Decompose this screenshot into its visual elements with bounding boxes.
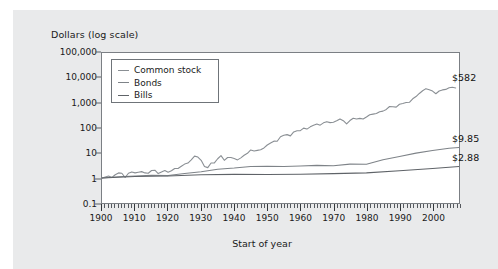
x-tick-minor: [171, 204, 172, 208]
x-tick-minor: [413, 204, 414, 208]
x-tick-minor: [344, 204, 345, 208]
x-tick-minor: [304, 204, 305, 208]
x-tick-label: 1910: [123, 213, 146, 223]
x-tick-minor: [394, 204, 395, 208]
x-tick-minor: [277, 204, 278, 208]
series-end-label: $2.88: [452, 152, 479, 163]
x-tick-label: 2000: [422, 213, 445, 223]
x-tick-minor: [290, 204, 291, 208]
x-tick-major: [101, 204, 102, 211]
x-tick-minor: [244, 204, 245, 208]
chart-figure: Dollars (log scale) 100,00010,0001,00010…: [0, 0, 498, 269]
x-tick-minor: [410, 204, 411, 208]
x-tick-minor: [294, 204, 295, 208]
x-tick-minor: [191, 204, 192, 208]
x-tick-minor: [121, 204, 122, 208]
x-tick-minor: [440, 204, 441, 208]
x-tick-minor: [430, 204, 431, 208]
x-tick-major: [367, 204, 368, 211]
legend-item: Common stock: [118, 64, 212, 77]
x-tick-minor: [251, 204, 252, 208]
x-tick-minor: [397, 204, 398, 208]
x-tick-minor: [227, 204, 228, 208]
x-tick-minor: [380, 204, 381, 208]
x-tick-minor: [124, 204, 125, 208]
x-tick-minor: [247, 204, 248, 208]
series-line: [102, 148, 459, 178]
x-tick-label: 1940: [223, 213, 246, 223]
x-tick-minor: [241, 204, 242, 208]
x-tick-minor: [337, 204, 338, 208]
series-end-label: $582: [452, 72, 476, 83]
x-tick-minor: [138, 204, 139, 208]
x-tick-major: [334, 204, 335, 211]
x-tick-major: [300, 204, 301, 211]
x-tick-minor: [104, 204, 105, 208]
x-tick-major: [433, 204, 434, 211]
legend-item: Bonds: [118, 77, 212, 90]
x-tick-minor: [154, 204, 155, 208]
x-tick-minor: [317, 204, 318, 208]
x-tick-minor: [174, 204, 175, 208]
x-tick-minor: [131, 204, 132, 208]
x-tick-minor: [340, 204, 341, 208]
x-tick-minor: [324, 204, 325, 208]
x-tick-minor: [384, 204, 385, 208]
x-tick-minor: [148, 204, 149, 208]
x-tick-minor: [184, 204, 185, 208]
x-tick-label: 1980: [355, 213, 378, 223]
x-tick-minor: [281, 204, 282, 208]
x-tick-minor: [420, 204, 421, 208]
x-tick-minor: [437, 204, 438, 208]
x-tick-minor: [407, 204, 408, 208]
x-tick-minor: [450, 204, 451, 208]
x-tick-minor: [194, 204, 195, 208]
x-tick-minor: [443, 204, 444, 208]
x-tick-minor: [390, 204, 391, 208]
x-tick-major: [201, 204, 202, 211]
x-tick-major: [134, 204, 135, 211]
x-tick-label: 1930: [189, 213, 212, 223]
legend-line-icon: [118, 82, 129, 83]
x-tick-label: 1950: [256, 213, 279, 223]
x-tick-major: [234, 204, 235, 211]
x-tick-minor: [187, 204, 188, 208]
x-tick-minor: [231, 204, 232, 208]
x-axis-title: Start of year: [13, 238, 498, 249]
x-tick-minor: [207, 204, 208, 208]
x-tick-label: 1990: [389, 213, 412, 223]
legend-item-label: Bonds: [134, 77, 162, 90]
x-tick-minor: [164, 204, 165, 208]
x-tick-minor: [377, 204, 378, 208]
x-tick-minor: [417, 204, 418, 208]
x-tick-minor: [330, 204, 331, 208]
x-axis-tick-marks: [101, 204, 461, 211]
x-tick-minor: [354, 204, 355, 208]
x-tick-minor: [197, 204, 198, 208]
x-tick-minor: [257, 204, 258, 208]
x-tick-minor: [370, 204, 371, 208]
x-tick-minor: [347, 204, 348, 208]
x-tick-minor: [427, 204, 428, 208]
x-tick-label: 1960: [289, 213, 312, 223]
x-tick-minor: [364, 204, 365, 208]
x-tick-major: [267, 204, 268, 211]
x-tick-minor: [403, 204, 404, 208]
legend-item-label: Bills: [134, 89, 152, 102]
x-tick-minor: [460, 204, 461, 208]
x-tick-minor: [274, 204, 275, 208]
x-tick-minor: [177, 204, 178, 208]
series-line: [102, 167, 459, 178]
x-tick-minor: [144, 204, 145, 208]
x-tick-minor: [314, 204, 315, 208]
x-tick-minor: [254, 204, 255, 208]
x-tick-minor: [204, 204, 205, 208]
x-tick-minor: [151, 204, 152, 208]
x-tick-minor: [141, 204, 142, 208]
x-tick-label: 1970: [322, 213, 345, 223]
figure-panel: Dollars (log scale) 100,00010,0001,00010…: [13, 10, 498, 269]
x-tick-minor: [360, 204, 361, 208]
x-tick-minor: [387, 204, 388, 208]
x-tick-minor: [307, 204, 308, 208]
x-tick-minor: [287, 204, 288, 208]
